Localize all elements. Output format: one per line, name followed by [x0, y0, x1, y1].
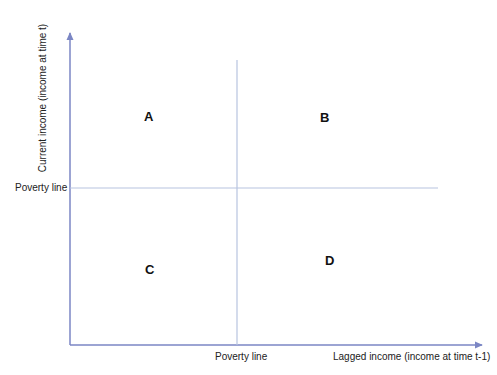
- x-axis-title: Lagged income (income at time t-1): [333, 351, 490, 362]
- quadrant-a-label: A: [144, 109, 153, 124]
- quadrant-c-label: C: [145, 262, 154, 277]
- quadrant-diagram: Current income (income at time t) Povert…: [0, 0, 497, 375]
- quadrant-b-label: B: [320, 110, 329, 125]
- diagram-canvas: [0, 0, 497, 375]
- x-poverty-line-label: Poverty line: [215, 351, 267, 362]
- y-axis-title-text: Current income (income at time t): [37, 24, 48, 172]
- y-poverty-line-label: Poverty line: [15, 182, 67, 193]
- quadrant-d-label: D: [325, 253, 334, 268]
